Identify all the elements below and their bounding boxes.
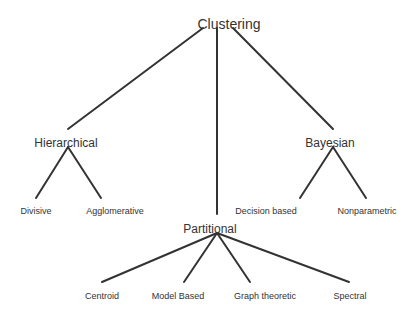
edge-clustering-bayesian xyxy=(233,28,333,129)
edge-hierarchical-agglomerative xyxy=(68,147,101,198)
edge-bayesian-decision xyxy=(300,147,333,198)
leaf-spectral: Spectral xyxy=(333,292,366,301)
leaf-nonparametric: Nonparametric xyxy=(337,207,396,216)
edge-bayesian-nonparametric xyxy=(333,147,366,198)
leaf-divisive: Divisive xyxy=(20,207,51,216)
leaf-centroid: Centroid xyxy=(85,292,119,301)
edge-hierarchical-divisive xyxy=(36,147,68,198)
node-hierarchical: Hierarchical xyxy=(34,137,97,149)
tree-edges xyxy=(0,0,414,315)
leaf-agglomerative: Agglomerative xyxy=(86,207,144,216)
edge-partitional-spectral xyxy=(217,233,349,282)
leaf-graph-theoretic: Graph theoretic xyxy=(234,292,296,301)
edge-partitional-graph xyxy=(217,233,250,282)
leaf-model-based: Model Based xyxy=(152,292,205,301)
node-bayesian: Bayesian xyxy=(305,137,354,149)
leaf-decision-based: Decision based xyxy=(235,207,297,216)
node-partitional: Partitional xyxy=(183,223,236,235)
node-clustering: Clustering xyxy=(197,17,260,31)
edge-clustering-hierarchical xyxy=(68,28,203,129)
